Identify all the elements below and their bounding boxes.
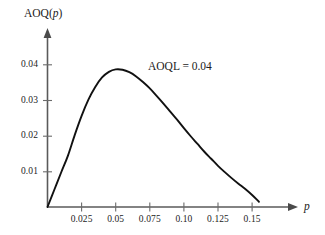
x-tick-label: 0.05	[107, 215, 124, 225]
aoq-curve-figure: AOQ(p) p AOQL = 0.04 0.01 0.02 0.03 0.04…	[0, 0, 325, 235]
x-tick-label: 0.075	[139, 215, 161, 225]
aoq-data-curve	[48, 69, 259, 207]
aoql-annotation: AOQL = 0.04	[148, 61, 212, 73]
x-axis-title: p	[304, 201, 310, 213]
x-tick-label: 0.10	[175, 215, 192, 225]
y-axis-title-suffix: )	[59, 7, 63, 19]
y-tick-label: 0.02	[2, 131, 38, 141]
x-tick-label: 0.125	[207, 215, 229, 225]
y-axis-arrow-icon	[44, 28, 52, 38]
plot-area	[0, 0, 325, 235]
x-tick-label: 0.15	[244, 215, 261, 225]
y-tick-label: 0.01	[2, 167, 38, 177]
y-tick-label: 0.04	[2, 60, 38, 70]
y-axis-title: AOQ(p)	[24, 8, 62, 20]
x-tick-label: 0.025	[71, 215, 93, 225]
x-axis-arrow-icon	[288, 203, 298, 211]
y-tick-label: 0.03	[2, 96, 38, 106]
y-axis-title-prefix: AOQ(	[24, 7, 53, 19]
